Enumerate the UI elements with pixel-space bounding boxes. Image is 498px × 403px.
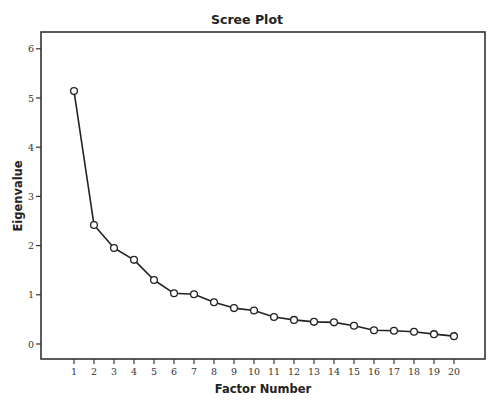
y-tick-label: 6: [28, 43, 34, 54]
y-axis: 0123456: [28, 43, 41, 349]
x-tick-label: 6: [171, 366, 177, 377]
x-tick-label: 5: [151, 366, 157, 377]
data-point-marker: [411, 328, 418, 335]
data-point-marker: [331, 319, 338, 326]
data-point-marker: [291, 316, 298, 323]
data-point-marker: [131, 256, 138, 263]
data-point-marker: [311, 318, 318, 325]
x-tick-label: 12: [288, 366, 300, 377]
data-point-marker: [111, 245, 118, 252]
data-point-marker: [391, 327, 398, 334]
data-point-marker: [271, 314, 278, 321]
data-point-marker: [71, 88, 78, 95]
x-tick-label: 20: [448, 366, 460, 377]
x-tick-label: 14: [328, 366, 340, 377]
x-tick-label: 13: [308, 366, 320, 377]
scree-plot-chart: Scree Plot 0123456 123456789101112131415…: [0, 0, 498, 403]
data-point-marker: [231, 305, 238, 312]
data-point-marker: [371, 327, 378, 334]
data-point-marker: [251, 307, 258, 314]
x-tick-label: 11: [268, 366, 280, 377]
data-point-marker: [191, 291, 198, 298]
x-axis-label: Factor Number: [215, 382, 312, 396]
plot-frame: [41, 32, 485, 359]
data-point-marker: [351, 322, 358, 329]
x-tick-label: 15: [348, 366, 360, 377]
data-point-marker: [151, 277, 158, 284]
x-tick-label: 4: [131, 366, 137, 377]
data-point-marker: [171, 290, 178, 297]
series-line: [74, 91, 454, 336]
x-tick-label: 7: [191, 366, 197, 377]
y-tick-label: 5: [28, 93, 34, 104]
eigenvalue-series: [71, 88, 458, 340]
x-tick-label: 19: [428, 366, 440, 377]
chart-title: Scree Plot: [211, 12, 283, 27]
x-tick-label: 3: [111, 366, 117, 377]
data-point-marker: [91, 222, 98, 229]
x-tick-label: 2: [91, 366, 97, 377]
data-point-marker: [451, 333, 458, 340]
x-tick-label: 10: [248, 366, 260, 377]
x-axis: 1234567891011121314151617181920: [71, 359, 460, 377]
x-tick-label: 17: [388, 366, 400, 377]
x-tick-label: 9: [231, 366, 237, 377]
x-tick-label: 16: [368, 366, 380, 377]
y-axis-label: Eigenvalue: [11, 160, 25, 231]
x-tick-label: 8: [211, 366, 217, 377]
y-tick-label: 2: [28, 240, 34, 251]
y-tick-label: 0: [28, 339, 34, 350]
data-point-marker: [211, 299, 218, 306]
x-tick-label: 1: [71, 366, 77, 377]
x-tick-label: 18: [408, 366, 420, 377]
data-point-marker: [431, 331, 438, 338]
y-tick-label: 3: [28, 191, 34, 202]
y-tick-label: 4: [28, 142, 34, 153]
y-tick-label: 1: [28, 289, 34, 300]
